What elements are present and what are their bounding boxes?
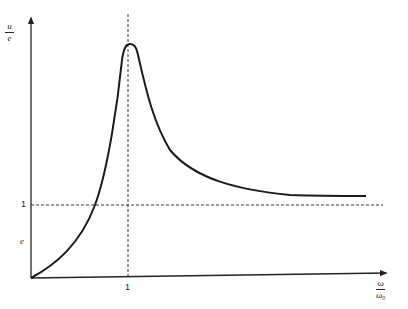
resonance-plot [0, 0, 408, 309]
x-axis-label: ω ω₀ [376, 279, 385, 300]
e-annotation: e [20, 237, 24, 246]
y-axis-label: u e [5, 22, 14, 43]
resonance-curve [31, 44, 366, 278]
y-axis-label-numerator: u [7, 22, 12, 31]
x-axis-label-numerator: ω [378, 279, 384, 288]
x-tick-1: 1 [125, 282, 130, 292]
x-axis [31, 273, 386, 278]
x-axis-label-denominator: ω₀ [376, 291, 385, 300]
y-tick-1: 1 [21, 199, 26, 209]
y-axis-label-denominator: e [8, 34, 12, 43]
